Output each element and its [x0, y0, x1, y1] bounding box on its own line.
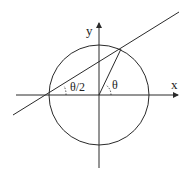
angle-arc-center: [106, 85, 111, 95]
y-axis-label: y: [86, 23, 93, 38]
angle-half-theta-label: θ/2: [70, 80, 85, 94]
secant-line: [13, 12, 179, 115]
angle-arc-edge: [64, 86, 66, 95]
x-axis-label: x: [171, 77, 178, 92]
unit-circle-diagram: y x θ θ/2: [0, 0, 188, 177]
angle-theta-label: θ: [112, 78, 118, 92]
